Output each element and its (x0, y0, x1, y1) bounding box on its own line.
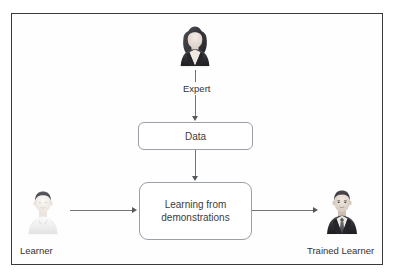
node-label-learner: Learner (18, 245, 55, 256)
node-label-trained-learner: Trained Learner (305, 245, 376, 256)
edge-lfd-to-trained (252, 210, 314, 211)
edge-expert-to-data-upper (195, 70, 196, 82)
arrowhead-learner-to-lfd (132, 207, 137, 213)
edge-data-to-lfd (195, 150, 196, 177)
businessman-avatar-icon (322, 184, 362, 236)
faded-person-avatar-icon (24, 184, 62, 236)
businesswoman-avatar-icon (177, 21, 213, 69)
arrowhead-lfd-to-trained (313, 207, 318, 213)
node-label-data: Data (185, 131, 206, 142)
edge-expert-to-data-lower (195, 95, 196, 117)
diagram-canvas: Expert Data Learning from demonstrations (0, 0, 399, 277)
node-label-learning-from-demonstrations: Learning from demonstrations (161, 198, 229, 224)
node-label-expert: Expert (181, 83, 212, 94)
edge-learner-to-lfd (70, 210, 133, 211)
node-box-learning-from-demonstrations[interactable]: Learning from demonstrations (139, 182, 252, 240)
arrowhead-expert-to-data (192, 116, 198, 121)
arrowhead-data-to-lfd (192, 176, 198, 181)
node-box-data[interactable]: Data (138, 122, 253, 150)
